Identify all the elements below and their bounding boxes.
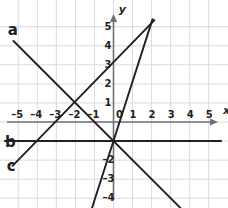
line-label-a: a: [8, 21, 18, 39]
axes: [7, 14, 218, 200]
graph-figure: –5–4–3–2–101234554321–2–3–4 a b c x y: [0, 0, 228, 208]
tick-x--2: –2: [68, 109, 80, 120]
tick-x-4: 4: [187, 109, 194, 120]
tick-y-1: 1: [105, 97, 112, 108]
tick-x--1: –1: [87, 109, 99, 120]
tick-x-1: 1: [130, 109, 137, 120]
tick-x-5: 5: [206, 109, 213, 120]
tick-x--3: –3: [49, 109, 61, 120]
line-label-b: b: [5, 133, 16, 151]
y-axis-label: y: [119, 3, 126, 16]
tick-x--4: –4: [30, 109, 42, 120]
tick-y--2: –2: [103, 154, 115, 165]
line-label-c: c: [7, 157, 16, 175]
tick-y-2: 2: [105, 78, 112, 89]
tick-y--4: –4: [103, 192, 115, 203]
tick-origin: 0: [116, 109, 123, 120]
tick-y-3: 3: [105, 59, 112, 70]
tick-y--3: –3: [103, 173, 115, 184]
tick-y-5: 5: [105, 21, 112, 32]
tick-x-2: 2: [149, 109, 156, 120]
tick-x--5: –5: [11, 109, 23, 120]
x-axis-label: x: [223, 104, 228, 117]
tick-y-4: 4: [105, 40, 112, 51]
tick-x-3: 3: [168, 109, 175, 120]
line-c: [13, 20, 155, 166]
